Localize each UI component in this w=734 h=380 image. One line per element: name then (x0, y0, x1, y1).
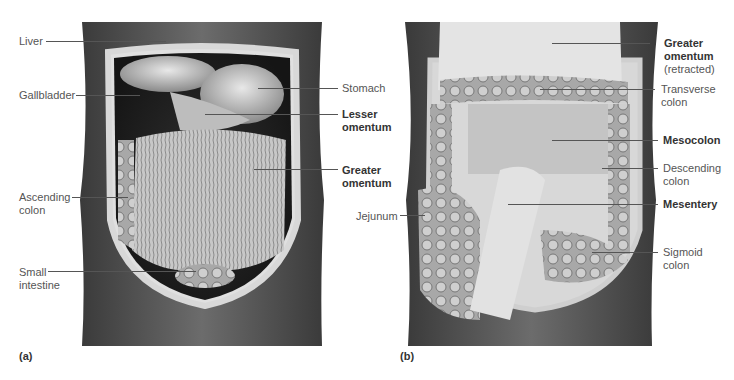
label-greater-omentum-retracted-line3: (retracted) (664, 63, 715, 76)
leader-line-descending-colon (602, 168, 658, 169)
label-stomach: Stomach (342, 82, 385, 95)
label-lesser-omentum: Lesser omentum (342, 108, 392, 134)
label-descending-colon-line2: colon (663, 175, 721, 188)
label-lesser-omentum-line1: Lesser (342, 108, 392, 121)
label-transverse-colon: Transverse colon (661, 83, 716, 109)
label-small-intestine: Small intestine (19, 266, 60, 292)
label-small-intestine-line2: intestine (19, 279, 60, 292)
leader-line-jejunum (400, 215, 425, 216)
leader-line-lesser-omentum (205, 114, 338, 115)
label-small-intestine-line1: Small (19, 266, 60, 279)
label-sigmoid-colon: Sigmoid colon (663, 246, 703, 272)
leader-line-transverse-colon (540, 89, 655, 90)
label-ascending-colon: Ascending colon (19, 191, 70, 217)
panel-tag-a: (a) (19, 350, 32, 362)
label-greater-omentum: Greater omentum (342, 164, 392, 190)
label-transverse-colon-line2: colon (661, 96, 716, 109)
label-sigmoid-colon-line2: colon (663, 259, 703, 272)
leader-line-small-intestine (48, 271, 196, 272)
leader-line-liver (46, 41, 166, 42)
leader-line-greater-omentum-retracted (552, 43, 650, 44)
leader-line-gallbladder (76, 95, 140, 96)
illustration-panel-a (0, 0, 734, 380)
label-liver: Liver (19, 35, 43, 48)
label-transverse-colon-line1: Transverse (661, 83, 716, 96)
leader-line-mesocolon (552, 140, 658, 141)
label-jejunum: Jejunum (356, 210, 398, 223)
label-greater-omentum-retracted-line2: omentum (664, 50, 715, 63)
panel-tag-b: (b) (400, 350, 414, 362)
abdomen-illustration-a (0, 0, 734, 380)
label-mesentery: Mesentery (663, 198, 717, 211)
label-gallbladder: Gallbladder (19, 89, 75, 102)
label-descending-colon: Descending colon (663, 162, 721, 188)
leader-line-sigmoid-colon (592, 252, 658, 253)
label-ascending-colon-line1: Ascending (19, 191, 70, 204)
label-greater-omentum-line2: omentum (342, 177, 392, 190)
label-greater-omentum-retracted: Greater omentum (retracted) (664, 37, 715, 76)
label-ascending-colon-line2: colon (19, 204, 70, 217)
leader-line-ascending-colon (72, 197, 128, 198)
leader-line-greater-omentum (254, 169, 338, 170)
label-greater-omentum-retracted-line1: Greater (664, 37, 715, 50)
label-mesocolon: Mesocolon (663, 134, 720, 147)
leader-line-mesentery (508, 204, 658, 205)
leader-line-stomach (258, 88, 338, 89)
label-greater-omentum-line1: Greater (342, 164, 392, 177)
label-descending-colon-line1: Descending (663, 162, 721, 175)
label-lesser-omentum-line2: omentum (342, 121, 392, 134)
label-sigmoid-colon-line1: Sigmoid (663, 246, 703, 259)
